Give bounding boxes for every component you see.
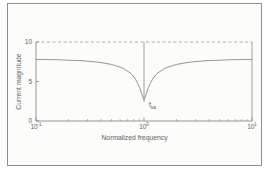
notch-frequency-label: fsa bbox=[149, 101, 156, 108]
x-axis-title: Normalized frequency bbox=[8, 134, 261, 141]
x-tick-label: 100 bbox=[133, 123, 155, 131]
figure-frame: 1050 10-1100101 Current magnitude Normal… bbox=[7, 3, 262, 166]
x-tick-label: 101 bbox=[241, 123, 263, 131]
y-tick-label: 10 bbox=[18, 38, 32, 46]
y-axis-title: Current magnitude bbox=[15, 47, 22, 117]
x-tick-label: 10-1 bbox=[25, 123, 47, 131]
notch-frequency-label-subscript: sa bbox=[151, 105, 156, 110]
